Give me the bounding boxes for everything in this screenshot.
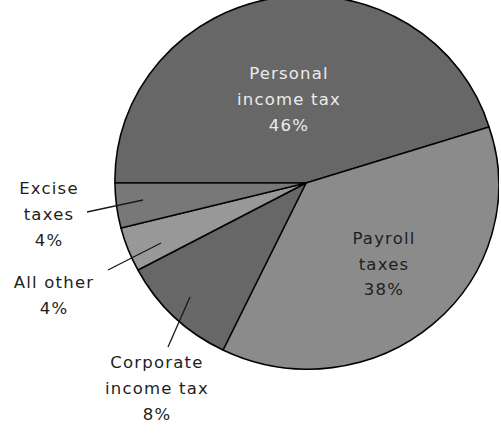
payroll-label-line2: taxes — [359, 255, 410, 274]
excise-label-line2: taxes — [24, 205, 75, 224]
label-corporate-income-tax: Corporate income tax 8% — [105, 353, 209, 424]
excise-label-value: 4% — [35, 231, 64, 250]
corporate-label-line1: Corporate — [110, 353, 203, 372]
payroll-label-line1: Payroll — [352, 229, 415, 248]
allother-label-value: 4% — [40, 299, 69, 318]
payroll-label-value: 38% — [364, 280, 404, 299]
personal-label-line2: income tax — [237, 90, 341, 109]
excise-label-line1: Excise — [19, 179, 79, 198]
allother-label-line1: All other — [14, 273, 94, 292]
label-all-other: All other 4% — [14, 273, 94, 318]
corporate-label-line2: income tax — [105, 379, 209, 398]
pie-slices — [115, 0, 499, 369]
personal-label-value: 46% — [269, 116, 309, 135]
label-excise-taxes: Excise taxes 4% — [19, 179, 79, 250]
pie-chart: Personal income tax 46% Payroll taxes 38… — [0, 0, 501, 435]
corporate-label-value: 8% — [143, 405, 172, 424]
personal-label-line1: Personal — [249, 64, 329, 83]
